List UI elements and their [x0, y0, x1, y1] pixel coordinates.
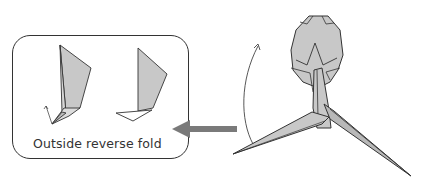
origami-diagram: Outside reverse fold — [0, 0, 423, 184]
inset-step-after — [116, 48, 167, 121]
inset-step-before — [44, 45, 91, 124]
main-origami-figure — [233, 16, 411, 176]
diagram-drawing — [0, 0, 423, 184]
curved-arrow-icon — [244, 44, 260, 144]
arrow-left-icon — [172, 120, 237, 138]
